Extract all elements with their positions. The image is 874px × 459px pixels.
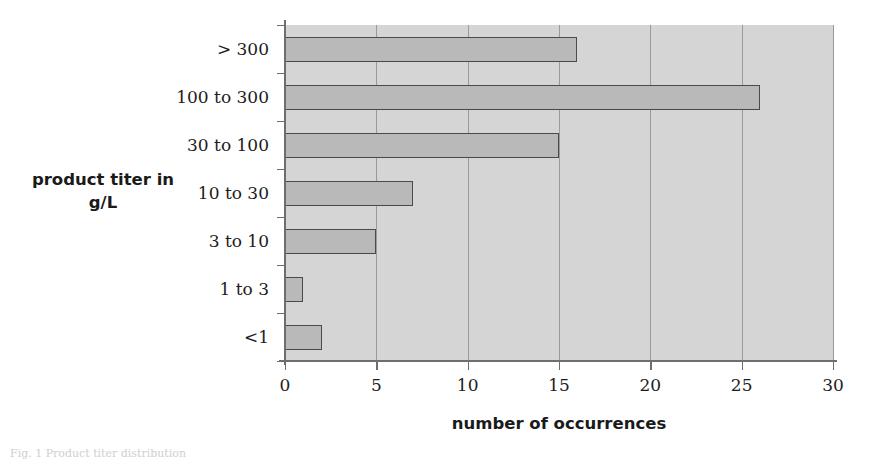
gridline-x-20	[650, 25, 651, 361]
y-tick-label: 10 to 30	[198, 169, 269, 217]
y-axis-tick	[277, 73, 285, 74]
gridline-x-25	[742, 25, 743, 361]
bar	[285, 133, 559, 158]
y-tick-label: > 300	[217, 25, 269, 73]
bar	[285, 85, 760, 110]
x-tick-label: 0	[255, 375, 315, 395]
y-tick-label: 30 to 100	[187, 121, 269, 169]
bar	[285, 37, 577, 62]
y-axis-tick	[277, 313, 285, 314]
x-axis-tick	[468, 361, 469, 370]
x-axis-tick	[285, 361, 286, 370]
bar	[285, 325, 322, 350]
y-axis-tick-labels: > 300100 to 30030 to 10010 to 303 to 101…	[120, 25, 277, 361]
y-axis-tick	[277, 121, 285, 122]
x-axis-tick	[742, 361, 743, 370]
figure-caption: Fig. 1 Product titer distribution	[10, 447, 186, 459]
chart-figure: product titer in g/L > 300100 to 30030 t…	[0, 0, 874, 459]
bar	[285, 181, 413, 206]
x-tick-label: 5	[346, 375, 406, 395]
plot-area	[285, 25, 833, 361]
y-tick-label: 100 to 300	[176, 73, 269, 121]
y-tick-label: <1	[244, 313, 269, 361]
x-tick-label: 30	[803, 375, 863, 395]
x-tick-label: 10	[438, 375, 498, 395]
y-axis-tick	[277, 169, 285, 170]
y-tick-label: 1 to 3	[219, 265, 269, 313]
x-axis-tick	[650, 361, 651, 370]
y-axis-tick	[277, 25, 285, 26]
gridline-x-30	[833, 25, 834, 361]
y-axis-tick	[277, 265, 285, 266]
y-axis-tick	[277, 361, 285, 362]
x-axis-title: number of occurrences	[285, 414, 833, 433]
x-tick-label: 20	[620, 375, 680, 395]
gridline-x-15	[559, 25, 560, 361]
x-axis-tick	[833, 361, 834, 370]
x-axis-line	[279, 360, 837, 362]
x-axis-tick	[376, 361, 377, 370]
x-tick-label: 25	[712, 375, 772, 395]
y-axis-tick	[277, 217, 285, 218]
bar	[285, 229, 376, 254]
x-axis-tick	[559, 361, 560, 370]
x-tick-label: 15	[529, 375, 589, 395]
bar	[285, 277, 303, 302]
y-tick-label: 3 to 10	[209, 217, 269, 265]
gridline-x-10	[468, 25, 469, 361]
